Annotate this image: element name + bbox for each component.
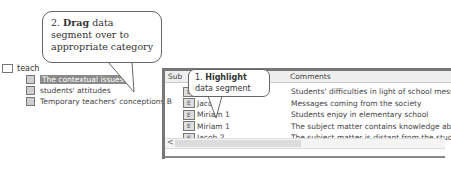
callout-highlight-step: 1. Highlight data segment <box>188 69 270 97</box>
callout-drag-step: 2. Drag data segment over to appropriate… <box>42 11 162 63</box>
